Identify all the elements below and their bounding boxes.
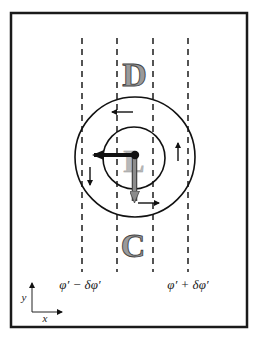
label-phi-minus: φ′ − δφ′ bbox=[59, 277, 101, 292]
axis-label-x: x bbox=[42, 312, 48, 324]
axis-label-y: y bbox=[21, 291, 27, 303]
field-line-diagram: D L C φ′ − δφ′ φ′ + δφ′ y x bbox=[0, 0, 261, 338]
center-dot bbox=[131, 151, 139, 159]
letter-d: D bbox=[122, 56, 147, 93]
letter-c: C bbox=[121, 227, 146, 264]
coordinate-axes: y x bbox=[21, 283, 62, 324]
label-phi-plus: φ′ + δφ′ bbox=[167, 277, 209, 292]
